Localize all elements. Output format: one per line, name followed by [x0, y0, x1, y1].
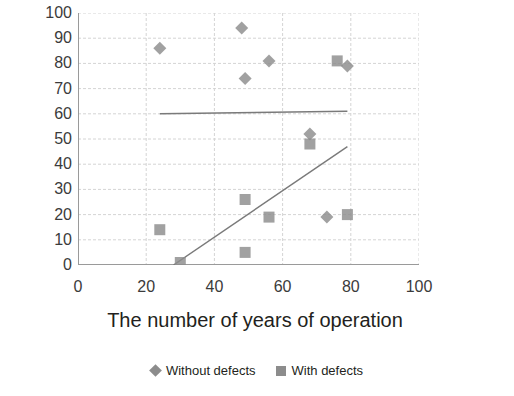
x-tick-label: 20 [122, 279, 170, 295]
data-point-without-defects [341, 59, 354, 72]
x-tick-label: 40 [190, 279, 238, 295]
data-point-with-defects [342, 209, 353, 220]
data-point-with-defects [240, 247, 251, 258]
data-point-without-defects [320, 211, 333, 224]
data-point-with-defects [264, 212, 275, 223]
chart-legend: Without defectsWith defects [0, 364, 514, 377]
data-point-with-defects [240, 194, 251, 205]
data-point-without-defects [263, 54, 276, 67]
x-tick-label: 80 [327, 279, 375, 295]
data-point-without-defects [153, 42, 166, 55]
x-axis-title: The number of years of operation [40, 309, 470, 332]
scatter-chart: 100% structures 1009080706050403020100 0… [0, 0, 514, 396]
x-tick-label: 60 [259, 279, 307, 295]
x-tick-label: 100 [395, 279, 443, 295]
data-point-without-defects [235, 22, 248, 35]
legend-item-label: Without defects [166, 364, 256, 377]
data-point-with-defects [175, 257, 186, 265]
legend-item-label: With defects [292, 364, 364, 377]
plot-canvas [78, 13, 419, 265]
data-point-with-defects [332, 55, 343, 66]
legend-item[interactable]: Without defects [151, 364, 256, 377]
x-tick-label: 0 [54, 279, 102, 295]
square-marker-icon [276, 366, 286, 376]
legend-item[interactable]: With defects [276, 364, 364, 377]
data-point-without-defects [239, 72, 252, 85]
diamond-marker-icon [149, 364, 162, 377]
data-point-with-defects [154, 224, 165, 235]
plot-area [78, 13, 419, 265]
data-point-with-defects [304, 139, 315, 150]
